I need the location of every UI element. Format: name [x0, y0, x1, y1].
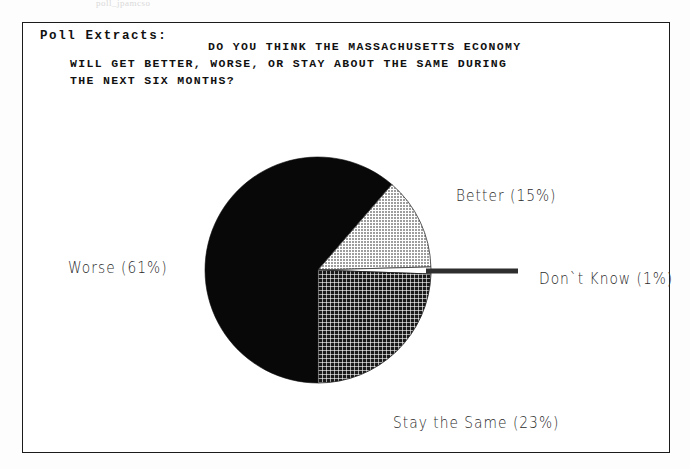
scanned-page: poll_jpamcso Poll Extracts: DO YOU THINK… [0, 0, 690, 469]
slice-label-dont-know: Don`t Know (1%) [539, 270, 673, 288]
slice-label-better: Better (15%) [456, 187, 556, 205]
slice-label-worse: Worse (61%) [68, 259, 168, 277]
pie-chart-svg [22, 22, 670, 453]
scan-bleed-text: poll_jpamcso [96, 0, 151, 8]
pie-chart: Better (15%) Don`t Know (1%) Stay the Sa… [22, 22, 670, 453]
dont-know-leader-line [426, 269, 518, 274]
slice-label-stay-the-same: Stay the Same (23%) [393, 414, 559, 432]
pie-slice-stay-the-same [318, 270, 431, 383]
